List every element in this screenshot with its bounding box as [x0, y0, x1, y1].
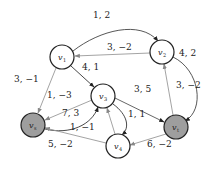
node-vt: v t [164, 115, 188, 139]
edge-label: 3, −2 [107, 42, 132, 52]
edge-v3-v4 [113, 104, 127, 135]
edge-label: 3, −1 [14, 74, 39, 84]
edge-label: 1, 1 [128, 109, 145, 119]
node-v2: v 2 [150, 40, 174, 64]
edge-label: 7, 3 [62, 108, 79, 118]
edge-label: 1, 2 [93, 10, 110, 20]
edge-vt-v2 [164, 64, 173, 115]
node-v3: v 3 [91, 84, 115, 108]
node-subscript: 4 [119, 146, 122, 152]
node-subscript: s [34, 125, 37, 131]
node-subscript: 3 [104, 96, 107, 102]
edge-v4-v3 [107, 108, 115, 134]
edge-label: 3, −2 [176, 80, 201, 90]
edge-label: 1, −1 [70, 122, 95, 132]
node-subscript: t [177, 127, 179, 133]
edge-label: 4, 1 [82, 62, 99, 72]
node-subscript: 2 [163, 52, 166, 58]
edge-label: 6, −2 [147, 139, 172, 149]
edge-label: 1, −3 [47, 90, 72, 100]
edge-label: 4, 2 [179, 48, 196, 58]
node-subscript: 1 [63, 57, 66, 63]
node-v1: v 1 [50, 45, 74, 69]
edge-label: 3, 5 [134, 84, 151, 94]
edge-label: 5, −2 [48, 139, 73, 149]
graph-diagram: 1, 2 3, −2 4, 1 3, −1 1, −3 7, 3 3, 5 3,… [0, 0, 219, 170]
node-vs: v s [21, 113, 45, 137]
edge-v2-v1 [75, 53, 150, 56]
node-v4: v 4 [106, 134, 130, 158]
